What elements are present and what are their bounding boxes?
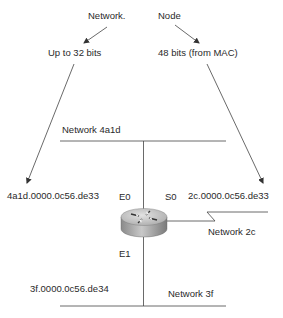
s0-address: 2c.0000.0c56.de33 xyxy=(188,190,269,201)
network-header-label: Network. xyxy=(88,10,125,21)
diagram-canvas xyxy=(0,0,283,318)
network-3f-label: Network 3f xyxy=(168,288,213,299)
node-field-arrow xyxy=(207,64,263,183)
e1-address: 3f.0000.0c56.de34 xyxy=(30,283,109,294)
e1-interface-label: E1 xyxy=(119,248,131,259)
node-field-size: 48 bits (from MAC) xyxy=(158,47,238,58)
node-arrow xyxy=(175,25,199,43)
network-4a1d-label: Network 4a1d xyxy=(62,124,121,135)
node-header-label: Node xyxy=(158,10,181,21)
network-field-size: Up to 32 bits xyxy=(48,47,101,58)
s0-interface-label: S0 xyxy=(165,191,177,202)
e0-interface-label: E0 xyxy=(119,191,131,202)
e0-address: 4a1d.0000.0c56.de33 xyxy=(7,190,99,201)
network-2c-label: Network 2c xyxy=(208,226,256,237)
router-icon xyxy=(121,209,167,238)
network-arrow xyxy=(84,27,107,43)
serial-link xyxy=(167,212,268,221)
